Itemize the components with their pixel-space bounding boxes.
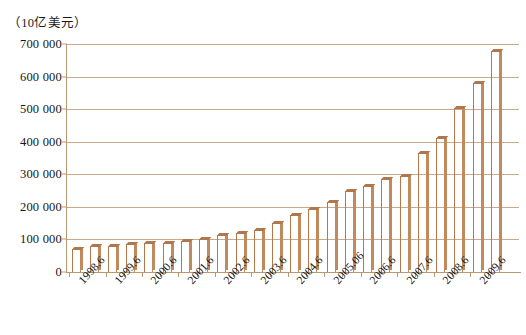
plot-right-edge: [519, 44, 520, 273]
bar-side: [427, 153, 429, 270]
bar-side: [190, 241, 192, 270]
bar-top: [162, 241, 175, 244]
bars-layer: [67, 44, 519, 272]
bar-side: [226, 235, 228, 270]
bar: [217, 235, 228, 272]
bar-face: [473, 83, 482, 272]
bar-chart: （10亿美元） 0100 000200 000300 000400 000500…: [0, 0, 526, 335]
x-axis-tick-mark: [434, 272, 435, 277]
x-axis-tick-mark: [215, 272, 216, 277]
bar-face: [290, 215, 299, 272]
x-axis-tick-mark: [178, 272, 179, 277]
x-axis-tick-mark: [251, 272, 252, 277]
y-axis-tick-label: 700 000: [20, 37, 62, 52]
y-axis-tick-label: 500 000: [20, 102, 62, 117]
bar-top: [472, 81, 485, 84]
y-axis-tick-mark: [62, 141, 67, 142]
bar-face: [254, 230, 263, 272]
bar-face: [108, 246, 117, 272]
bar-face: [363, 186, 372, 272]
y-axis-tick-label: 100 000: [20, 232, 62, 247]
bar-side: [445, 138, 447, 270]
x-axis-tick-mark: [106, 272, 107, 277]
bar-face: [217, 235, 226, 272]
bar-face: [327, 202, 336, 272]
bar: [436, 138, 447, 272]
y-axis-tick-label: 300 000: [20, 167, 62, 182]
y-axis-tick-mark: [62, 109, 67, 110]
bar-face: [400, 176, 409, 272]
bar: [290, 215, 301, 272]
x-axis-tick-mark: [470, 272, 471, 277]
bar-side: [263, 230, 265, 270]
x-axis-tick-mark: [324, 272, 325, 277]
x-axis-tick-mark: [397, 272, 398, 277]
bar-side: [500, 51, 502, 270]
bar: [363, 186, 374, 272]
bar-top: [490, 49, 503, 52]
bar: [491, 51, 502, 272]
y-axis-tick-labels: 0100 000200 000300 000400 000500 000600 …: [0, 0, 62, 335]
bar-side: [372, 186, 374, 270]
bar: [473, 83, 484, 272]
bar-side: [153, 243, 155, 270]
bar: [108, 246, 119, 272]
bar-face: [436, 138, 445, 272]
bar: [72, 249, 83, 272]
x-axis-tick-mark: [288, 272, 289, 277]
x-axis-tick-mark: [142, 272, 143, 277]
y-axis-tick-mark: [62, 239, 67, 240]
bar-top: [235, 231, 248, 234]
bar-top: [345, 189, 358, 192]
bar-side: [299, 215, 301, 270]
y-axis-tick-label: 400 000: [20, 134, 62, 149]
bar: [327, 202, 338, 272]
bar-top: [399, 174, 412, 177]
x-axis-tick-mark: [361, 272, 362, 277]
bar-side: [463, 108, 465, 270]
y-axis-tick-mark: [62, 44, 67, 45]
y-axis-tick-mark: [62, 174, 67, 175]
x-axis-tick-labels: 1998.61999.62000.62001.62002.62003.62004…: [67, 278, 519, 335]
y-axis-tick-label: 200 000: [20, 199, 62, 214]
bar: [400, 176, 411, 272]
bar: [254, 230, 265, 272]
bar-top: [253, 228, 266, 231]
y-axis-tick-mark: [62, 206, 67, 207]
bar-face: [181, 241, 190, 272]
bar-side: [117, 246, 119, 270]
bar-side: [409, 176, 411, 270]
bar: [181, 241, 192, 272]
y-axis-tick-label: 600 000: [20, 69, 62, 84]
bar-face: [491, 51, 500, 272]
bar-face: [144, 243, 153, 272]
bar-side: [482, 83, 484, 270]
bar: [144, 243, 155, 272]
y-axis-tick-mark: [62, 272, 67, 273]
y-axis-tick-mark: [62, 76, 67, 77]
bar: [454, 108, 465, 272]
bar-face: [454, 108, 463, 272]
bar-side: [81, 249, 83, 270]
bar-side: [336, 202, 338, 270]
bar-face: [72, 249, 81, 272]
x-axis-tick-mark: [69, 272, 70, 277]
